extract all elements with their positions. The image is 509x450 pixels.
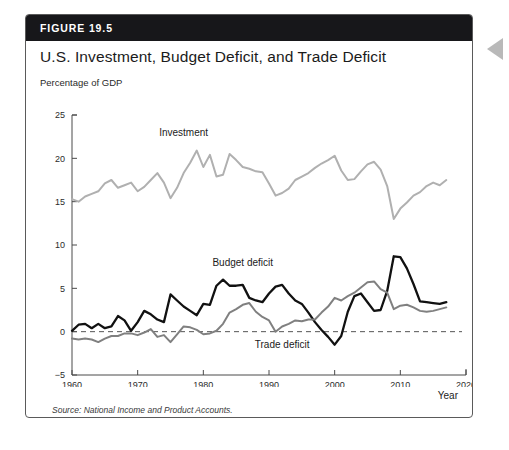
y-tick-label: −5 [55,370,65,380]
figure-header-bar: FIGURE 19.5 [26,15,472,41]
annotation-layer: InvestmentBudget deficitTrade deficit [159,127,310,350]
x-tick-label: 2000 [325,380,345,387]
figure-title: U.S. Investment, Budget Deficit, and Tra… [40,48,386,66]
y-tick-label: 5 [60,284,65,294]
series-layer [72,151,446,345]
x-tick-label: 1960 [62,380,82,387]
y-tick-label: 10 [55,240,65,250]
side-arrow-tab-icon [487,38,503,60]
series-annotation-investment: Investment [159,127,208,138]
line-chart-svg: 2520151050−51960197019801990200020102020… [26,87,473,387]
y-tick-label: 0 [60,327,65,337]
y-tick-label: 15 [55,197,65,207]
series-annotation-budget-deficit: Budget deficit [212,257,273,268]
x-axis-caption: Year [438,390,458,401]
x-tick-label: 2020 [456,380,473,387]
series-line-trade-deficit [72,281,446,342]
chart-plot-area: 2520151050−51960197019801990200020102020… [26,87,473,387]
y-tick-label: 20 [55,154,65,164]
figure-card: FIGURE 19.5 U.S. Investment, Budget Defi… [25,14,473,418]
x-tick-label: 1970 [128,380,148,387]
x-tick-label: 1980 [193,380,213,387]
y-tick-label: 25 [55,110,65,120]
x-tick-label: 2010 [390,380,410,387]
series-annotation-trade-deficit: Trade deficit [255,339,310,350]
series-line-investment [72,151,446,219]
source-note: Source: National Income and Product Acco… [52,405,233,415]
figure-number-label: FIGURE 19.5 [40,22,113,34]
x-tick-label: 1990 [259,380,279,387]
